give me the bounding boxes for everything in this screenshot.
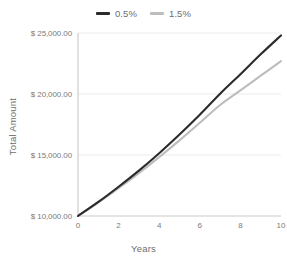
x-axis-tick-labels: 0246810 (76, 221, 286, 230)
line-chart: 0.5% 1.5% Total Amount Years $ 10,000.00… (0, 0, 287, 270)
y-axis-tick-label: $ 15,000.00 (31, 151, 73, 160)
x-axis-tick-label: 0 (76, 221, 81, 230)
x-axis-tick-label: 4 (157, 221, 162, 230)
y-axis-tick-label: $ 25,000.00 (31, 29, 73, 38)
plot-area: $ 10,000.00$ 15,000.00$ 20,000.00$ 25,00… (0, 0, 287, 270)
x-axis-tick-label: 10 (277, 221, 286, 230)
plot-svg: $ 10,000.00$ 15,000.00$ 20,000.00$ 25,00… (0, 0, 287, 270)
y-axis-tick-label: $ 10,000.00 (31, 212, 73, 221)
x-axis-tick-label: 8 (238, 221, 243, 230)
series-layer (78, 35, 281, 216)
series-line-0.5% (78, 35, 281, 216)
x-axis-tick-label: 2 (116, 221, 121, 230)
y-axis-tick-label: $ 20,000.00 (31, 90, 73, 99)
x-axis-tick-label: 6 (198, 221, 203, 230)
gridlines (78, 33, 281, 155)
series-line-1.5% (78, 61, 281, 216)
y-axis-tick-labels: $ 10,000.00$ 15,000.00$ 20,000.00$ 25,00… (31, 29, 73, 221)
